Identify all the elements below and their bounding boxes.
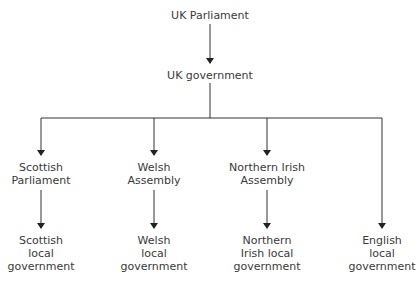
- node-label-line: Assembly: [127, 174, 180, 187]
- node-label-line: government: [233, 260, 300, 273]
- node-label-line: Irish local: [233, 247, 300, 260]
- node-welsh-local-government: Welshlocalgovernment: [120, 234, 187, 273]
- node-northern-irish-assembly: Northern IrishAssembly: [229, 161, 305, 187]
- node-label-line: Northern Irish: [229, 161, 305, 174]
- node-label-line: UK Parliament: [171, 9, 249, 22]
- node-uk-parliament: UK Parliament: [171, 9, 249, 22]
- node-label-line: Northern: [233, 234, 300, 247]
- node-uk-government: UK government: [167, 69, 253, 82]
- node-scottish-parliament: ScottishParliament: [11, 161, 70, 187]
- node-label-line: Scottish: [11, 161, 70, 174]
- node-label-line: government: [7, 260, 74, 273]
- node-label-line: government: [348, 260, 415, 273]
- node-label-line: local: [7, 247, 74, 260]
- node-label-line: Scottish: [7, 234, 74, 247]
- node-scottish-local-government: Scottishlocalgovernment: [7, 234, 74, 273]
- node-label-line: Parliament: [11, 174, 70, 187]
- node-label-line: English: [348, 234, 415, 247]
- node-northern-irish-local-government: NorthernIrish localgovernment: [233, 234, 300, 273]
- node-label-line: local: [348, 247, 415, 260]
- node-label-line: Welsh: [120, 234, 187, 247]
- node-label-line: UK government: [167, 69, 253, 82]
- node-label-line: local: [120, 247, 187, 260]
- node-label-line: government: [120, 260, 187, 273]
- node-english-local-government: Englishlocalgovernment: [348, 234, 415, 273]
- node-label-line: Assembly: [229, 174, 305, 187]
- node-label-line: Welsh: [127, 161, 180, 174]
- node-welsh-assembly: WelshAssembly: [127, 161, 180, 187]
